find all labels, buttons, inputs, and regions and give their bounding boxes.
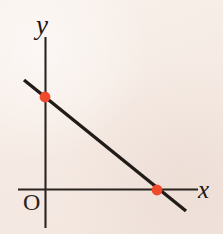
y-axis-label: y	[36, 12, 48, 39]
x-intercept-point	[152, 185, 163, 196]
y-intercept-point	[40, 92, 51, 103]
x-axis-label: x	[198, 177, 209, 202]
graph-figure: y x O	[0, 0, 223, 234]
origin-label: O	[23, 190, 40, 214]
